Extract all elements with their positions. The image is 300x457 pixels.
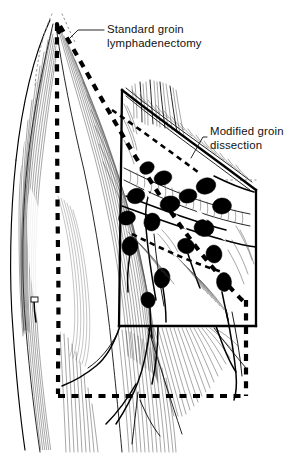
- illustration-canvas: Standard groin lymphadenectomy Modified …: [0, 0, 300, 457]
- label-standard-groin-line1: Standard groin: [107, 23, 184, 35]
- label-modified-groin-line2: dissection: [210, 139, 262, 151]
- label-modified-groin-line1: Modified groin: [210, 125, 284, 137]
- boundary-dashed-apex: [57, 24, 59, 32]
- medical-illustration-figure: Standard groin lymphadenectomy Modified …: [0, 0, 300, 457]
- label-standard-groin-line2: lymphadenectomy: [107, 37, 202, 49]
- ligature-clip: [31, 297, 38, 302]
